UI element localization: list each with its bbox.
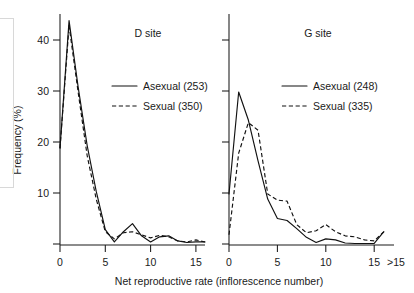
panel-d-series-asexual [60, 21, 205, 243]
panel-g-x-ticks [229, 245, 374, 252]
panel-g-series [229, 92, 384, 243]
panel-g-series-asexual [229, 92, 384, 243]
panel-g-xlabel-0: 0 [226, 256, 232, 268]
panel-d-x-ticks [60, 245, 196, 252]
panel-g-legend-label-asexual: Asexual (248) [313, 80, 378, 92]
panel-g-xlabel-10: 10 [320, 256, 332, 268]
panel-g-xlabel-5: 5 [274, 256, 280, 268]
panel-d-series-sexual [60, 26, 205, 242]
panel-d-xlabel-0: 0 [57, 256, 63, 268]
panel-d-ylabel-10: 10 [37, 187, 49, 199]
page-edge-artifact [0, 18, 14, 188]
panel-g-legend: Asexual (248) Sexual (335) [282, 80, 378, 112]
panel-g-xlabel-over15: >15 [387, 256, 405, 268]
panel-d-y-ticks [53, 40, 60, 244]
panel-g-legend-label-sexual: Sexual (335) [313, 100, 373, 112]
panel-d-title: D site [135, 27, 162, 39]
panel-d-xlabel-5: 5 [102, 256, 108, 268]
panel-d-series [60, 21, 205, 243]
panel-g-xlabel-15: 15 [368, 256, 380, 268]
x-axis-title: Net reproductive rate (inflorescence num… [115, 275, 323, 287]
panel-g-title: G site [304, 27, 332, 39]
frequency-distribution-chart: Frequency (%) Net reproductive rate (inf… [0, 0, 414, 293]
panel-d-site: D site 10 20 30 40 [37, 14, 207, 268]
panel-d-xlabel-15: 15 [190, 256, 202, 268]
panel-d-legend-label-sexual: Sexual (350) [143, 100, 203, 112]
figure-container: Frequency (%) Net reproductive rate (inf… [0, 0, 414, 293]
panel-g-y-ticks [222, 40, 229, 244]
panel-d-legend: Asexual (253) Sexual (350) [112, 80, 208, 112]
panel-d-ylabel-40: 40 [37, 34, 49, 46]
panel-d-xlabel-10: 10 [145, 256, 157, 268]
panel-g-axes [229, 14, 394, 245]
panel-g-series-sexual [229, 123, 384, 241]
panel-g-x-tick-labels: 0 5 10 15 >15 [226, 256, 405, 268]
panel-d-axes [60, 14, 205, 245]
panel-d-ylabel-20: 20 [37, 136, 49, 148]
panel-d-legend-label-asexual: Asexual (253) [143, 80, 208, 92]
panel-d-x-tick-labels: 0 5 10 15 [57, 256, 202, 268]
panel-d-y-tick-labels: 10 20 30 40 [37, 34, 49, 199]
panel-g-site: G site 0 5 10 15 [222, 14, 405, 268]
panel-d-ylabel-30: 30 [37, 85, 49, 97]
